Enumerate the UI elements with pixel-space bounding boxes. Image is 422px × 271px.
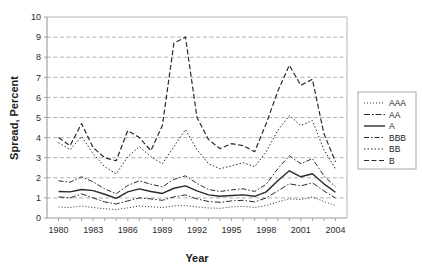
y-tick-label-9: 9 bbox=[36, 32, 41, 42]
y-tick-label-2: 2 bbox=[36, 173, 41, 183]
y-tick-label-10: 10 bbox=[31, 12, 41, 22]
chart-container: 012345678910 198019831986198919921995199… bbox=[0, 0, 422, 271]
y-tick-label-0: 0 bbox=[36, 213, 41, 223]
x-tick-label-1998: 1998 bbox=[256, 225, 276, 235]
x-tick-label-2001: 2001 bbox=[291, 225, 311, 235]
y-tick-label-7: 7 bbox=[36, 73, 41, 83]
y-tick-label-5: 5 bbox=[36, 113, 41, 123]
x-tick-label-1980: 1980 bbox=[49, 225, 69, 235]
legend-label-bbb: BBB bbox=[389, 133, 406, 143]
legend-label-aaa: AAA bbox=[389, 98, 406, 108]
x-tick-labels: 198019831986198919921995199820012004 bbox=[49, 225, 346, 235]
x-tick-label-1983: 1983 bbox=[83, 225, 103, 235]
x-tick-label-1992: 1992 bbox=[187, 225, 207, 235]
x-tick-label-1986: 1986 bbox=[118, 225, 138, 235]
series-line-bbb bbox=[59, 156, 336, 194]
x-tick-label-1989: 1989 bbox=[152, 225, 172, 235]
legend-label-a: A bbox=[389, 121, 395, 131]
y-tick-labels: 012345678910 bbox=[31, 12, 41, 223]
x-tick-label-2004: 2004 bbox=[325, 225, 345, 235]
line-chart: 012345678910 198019831986198919921995199… bbox=[0, 0, 422, 271]
legend-label-b: B bbox=[389, 156, 395, 166]
y-tick-label-1: 1 bbox=[36, 193, 41, 203]
series-line-bb bbox=[59, 115, 336, 173]
data-series-group bbox=[59, 37, 336, 209]
x-tick-label-1995: 1995 bbox=[222, 225, 242, 235]
legend-label-bb: BB bbox=[389, 144, 401, 154]
y-tick-label-8: 8 bbox=[36, 52, 41, 62]
y-tick-label-6: 6 bbox=[36, 93, 41, 103]
legend-border bbox=[358, 92, 416, 169]
series-line-b bbox=[59, 37, 336, 162]
legend-label-aa: AA bbox=[389, 110, 401, 120]
y-tick-label-4: 4 bbox=[36, 133, 41, 143]
y-tick-label-3: 3 bbox=[36, 153, 41, 163]
y-axis-title: Spread, Percent bbox=[8, 76, 20, 160]
chart-legend: AAAAAABBBBBB bbox=[358, 92, 416, 169]
x-axis-title: Year bbox=[185, 252, 209, 264]
